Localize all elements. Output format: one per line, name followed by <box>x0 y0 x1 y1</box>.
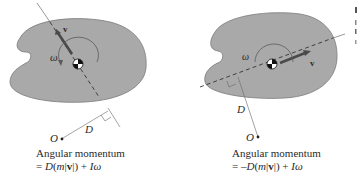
caption-equation-left: = D(m|v|) + Iω <box>36 160 101 173</box>
center-of-mass-icon-right <box>267 59 277 69</box>
caption-equation-right: = –D(m|v|) + Iω <box>232 160 303 173</box>
origin-point-left <box>61 138 64 141</box>
caption-title-right: Angular momentum <box>232 147 321 160</box>
distance-label-right: D <box>237 103 245 116</box>
origin-point-right <box>257 136 260 139</box>
right-panel <box>200 13 345 139</box>
line-of-action-left <box>37 3 50 22</box>
origin-label-right: O <box>246 131 254 144</box>
cropped-margin-text <box>355 7 357 44</box>
distance-label-left: D <box>85 123 93 136</box>
rigid-body-right <box>205 13 337 99</box>
omega-label-right: ω <box>242 50 249 63</box>
right-angle-marker-left <box>101 115 111 121</box>
origin-label-left: O <box>50 132 58 145</box>
left-panel <box>10 3 146 140</box>
velocity-label-left: v <box>63 23 68 36</box>
caption-title-left: Angular momentum <box>36 147 125 160</box>
velocity-label-right: v <box>310 57 315 70</box>
center-of-mass-icon-left <box>73 59 83 69</box>
line-of-action-right <box>333 34 345 38</box>
omega-label-left: ω <box>50 51 58 64</box>
